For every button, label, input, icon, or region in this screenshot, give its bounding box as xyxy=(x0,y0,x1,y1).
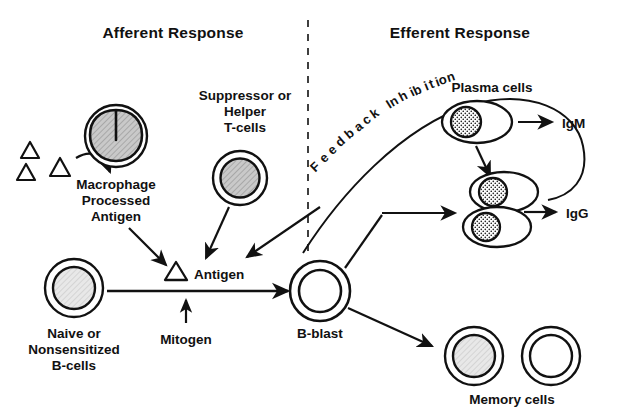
plasma-cell-3 xyxy=(463,207,531,247)
antigen-triangle-on-arrow xyxy=(165,262,187,280)
macrophage-label-line3: Antigen xyxy=(91,209,141,224)
header-efferent-response: Efferent Response xyxy=(390,24,531,41)
plasma-cell-3-nucleus xyxy=(472,213,500,241)
bblast-nucleus xyxy=(299,270,341,312)
arrow-tcell-to-antigen xyxy=(206,207,229,258)
line-bblast-to-plasma-branch xyxy=(345,215,382,268)
naive-b-cell xyxy=(45,259,103,317)
antigen-triangle-2 xyxy=(17,164,35,180)
macrophage-label-line2: Processed xyxy=(82,193,150,208)
antigen-triangle-1 xyxy=(21,142,39,158)
immune-response-diagram: Afferent Response Efferent Response Macr… xyxy=(0,0,642,416)
tcell-label-line2: Helper xyxy=(224,104,267,119)
arrow-macrophage-to-antigen xyxy=(129,228,166,265)
macrophage-bilobed-nucleus xyxy=(90,110,142,161)
antigen-triangles xyxy=(17,142,70,180)
igg-label: IgG xyxy=(566,206,589,221)
tcell-nucleus xyxy=(221,159,260,198)
memory-cell-2 xyxy=(522,327,580,385)
plasma-cell-2 xyxy=(470,172,538,212)
macrophage-cell xyxy=(85,105,147,167)
tcell-label-line1: Suppressor or xyxy=(199,88,292,103)
plasma-cells-label: Plasma cells xyxy=(451,80,532,95)
feedback-label-char-0: F xyxy=(307,159,323,175)
antigen-label: Antigen xyxy=(194,267,244,282)
tcell-label-line3: T-cells xyxy=(224,120,266,135)
arrow-bblast-to-memory xyxy=(348,308,432,346)
t-cell xyxy=(213,151,267,205)
mitogen-label: Mitogen xyxy=(160,332,212,347)
plasma-cell-2-nucleus xyxy=(479,178,507,206)
naive-bcell-label-line3: B-cells xyxy=(52,358,96,373)
macrophage-label-line1: Macrophage xyxy=(76,177,156,192)
arrow-feedback-inhibition xyxy=(247,207,320,257)
memory-cell-1 xyxy=(445,327,503,385)
naive-bcell-label-line2: Nonsensitized xyxy=(28,342,120,357)
header-afferent-response: Afferent Response xyxy=(102,24,243,41)
antigen-triangle-3 xyxy=(50,158,70,176)
naive-bcell-label-line1: Naive or xyxy=(47,326,101,341)
memory-cell-2-nucleus xyxy=(530,335,572,377)
naive-bcell-nucleus xyxy=(53,267,95,309)
diagram-canvas: Afferent Response Efferent Response Macr… xyxy=(0,0,642,416)
arrow-plasma1-to-plasma2 xyxy=(476,146,490,176)
plasma-cell-1 xyxy=(442,101,512,143)
bblast-label: B-blast xyxy=(297,326,343,341)
memory-cells-label: Memory cells xyxy=(469,392,555,407)
igm-label: IgM xyxy=(562,116,585,131)
memory-cell-1-nucleus xyxy=(453,335,495,377)
plasma-cell-1-nucleus xyxy=(451,107,481,137)
b-blast-cell xyxy=(290,261,350,321)
